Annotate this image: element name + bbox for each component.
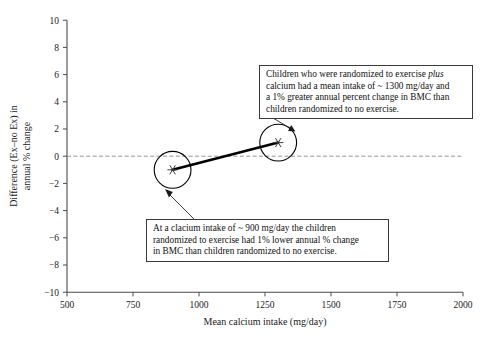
scatter-plot: 10 8 6 4 2 0 −2 −4 −6 −8 −10 500 750 100… [0,0,499,349]
svg-text:0: 0 [54,152,59,162]
svg-text:500: 500 [60,300,75,310]
annotation-upper-line1-text: Children who were randomized to exercise [266,69,428,79]
annotation-box-upper: Children who were randomized to exercise… [259,65,473,119]
annotation-box-lower: At a clacium intake of ~ 900 mg/day the … [146,219,389,262]
y-axis-title: Difference (Ex–no Ex) in annual % change [8,105,32,207]
annotation-upper-emphasis: plus [428,69,444,79]
x-axis-title: Mean calcium intake (mg/day) [203,316,326,328]
svg-text:8: 8 [54,43,59,53]
y-axis-ticks [63,20,67,292]
svg-text:−10: −10 [44,288,59,298]
leader-line-lower [165,189,194,219]
svg-text:4: 4 [54,97,59,107]
annotation-lower-line2: randomized to exercise had 1% lower annu… [153,235,383,247]
svg-text:10: 10 [50,16,60,26]
asterisk-marker-left [167,165,177,174]
svg-text:2: 2 [54,124,59,134]
x-axis-ticks [67,292,463,296]
svg-text:750: 750 [126,300,141,310]
svg-text:2000: 2000 [454,300,473,310]
annotation-lower-line3: in BMC than children randomized to no ex… [153,246,383,258]
asterisk-marker-right [273,138,283,147]
y-axis-title-line1: Difference (Ex–no Ex) in [8,105,20,207]
svg-text:−4: −4 [49,206,59,216]
svg-text:1000: 1000 [190,300,209,310]
svg-text:1250: 1250 [256,300,275,310]
annotation-upper-line1: Children who were randomized to exercise… [266,69,467,81]
svg-text:6: 6 [54,70,59,80]
figure-container: 10 8 6 4 2 0 −2 −4 −6 −8 −10 500 750 100… [0,0,499,349]
annotation-upper-line2: calcium had a mean intake of ~ 1300 mg/d… [266,81,467,93]
svg-text:−8: −8 [49,260,59,270]
svg-text:−2: −2 [49,179,59,189]
svg-text:−6: −6 [49,233,59,243]
data-point-900 [154,151,191,188]
svg-text:1500: 1500 [322,300,341,310]
y-axis-title-line2: annual % change [21,121,32,190]
x-tick-labels: 500 750 1000 1250 1500 1750 2000 [60,300,473,310]
y-tick-labels: 10 8 6 4 2 0 −2 −4 −6 −8 −10 [44,16,59,298]
annotation-upper-line3: a 1% greater annual percent change in BM… [266,92,467,104]
annotation-upper-line4: children randomized to no exercise. [266,104,467,116]
svg-text:1750: 1750 [388,300,407,310]
annotation-lower-line1: At a clacium intake of ~ 900 mg/day the … [153,223,383,235]
